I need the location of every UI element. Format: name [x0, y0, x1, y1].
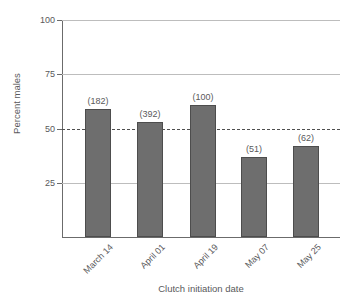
x-tick-label-may-07: May 07: [224, 242, 271, 289]
y-tick-label-50: 50: [45, 125, 55, 134]
bar-march-14[interactable]: [85, 109, 111, 237]
bar-may-25[interactable]: [293, 146, 319, 237]
x-tick-label-march-14: March 14: [68, 242, 115, 289]
y-tick-mark-75: [57, 74, 62, 75]
x-tick-label-april-19: April 19: [173, 242, 220, 289]
bar-label-may-07: (51): [246, 145, 262, 154]
bar-label-april-01: (392): [139, 110, 160, 119]
bar-chart-figure: 100 75 50 25 (182) (392) (100): [0, 0, 346, 306]
y-tick-label-75: 75: [45, 70, 55, 79]
bar-label-april-19: (100): [192, 93, 213, 102]
y-axis-title: Percent males: [11, 54, 22, 154]
bar-label-may-25: (62): [298, 134, 314, 143]
bar-april-01[interactable]: [137, 122, 163, 237]
gridline-100: [62, 20, 340, 21]
y-tick-mark-25: [57, 183, 62, 184]
gridline-75: [62, 74, 340, 75]
plot-area: (182) (392) (100) (51) (62): [62, 20, 340, 237]
bar-april-19[interactable]: [190, 105, 216, 237]
y-tick-label-100: 100: [40, 16, 55, 25]
x-tick-label-may-25: May 25: [276, 242, 323, 289]
x-axis-title: Clutch initiation date: [62, 283, 340, 294]
bar-may-07[interactable]: [241, 157, 267, 237]
y-tick-label-25: 25: [45, 179, 55, 188]
y-axis-tick-labels: 100 75 50 25: [22, 20, 55, 237]
y-tick-mark-100: [57, 20, 62, 21]
x-tick-label-april-01: April 01: [120, 242, 167, 289]
bar-label-march-14: (182): [87, 97, 108, 106]
